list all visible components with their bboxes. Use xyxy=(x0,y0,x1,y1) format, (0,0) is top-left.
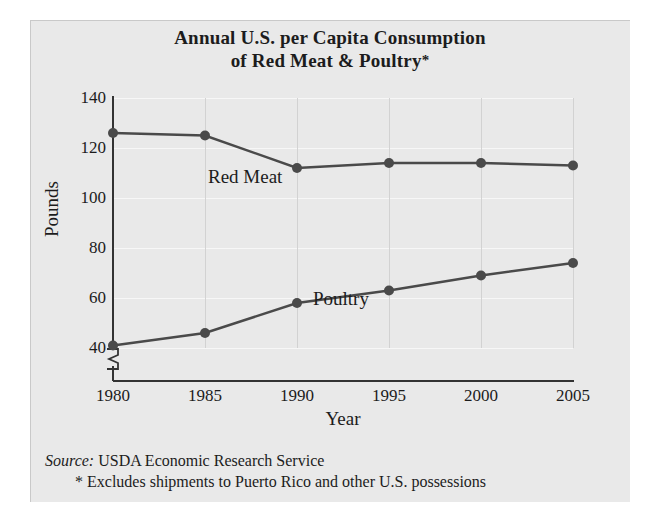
chart-title-line-2: of Red Meat & Poultry xyxy=(231,50,422,71)
gridline-y-100 xyxy=(113,198,573,199)
y-tick-label-40: 40 xyxy=(60,338,106,358)
x-axis-line xyxy=(113,380,574,382)
chart-figure: Annual U.S. per Capita Consumption of Re… xyxy=(0,0,660,530)
gridline-x-2000 xyxy=(481,98,482,348)
x-tick-label-1990: 1990 xyxy=(257,386,337,406)
gridline-y-140 xyxy=(113,98,573,99)
panel-top-rule xyxy=(30,20,630,21)
footnote-line: * Excludes shipments to Puerto Rico and … xyxy=(75,473,486,491)
source-label: Source: xyxy=(45,452,94,469)
source-line: Source: USDA Economic Research Service xyxy=(45,452,324,470)
y-axis-line xyxy=(112,96,114,350)
x-tick-label-1995: 1995 xyxy=(349,386,429,406)
chart-title: Annual U.S. per Capita Consumption of Re… xyxy=(60,26,600,72)
source-text: USDA Economic Research Service xyxy=(98,452,324,469)
y-tick-label-120: 120 xyxy=(60,138,106,158)
series-label-poultry: Poultry xyxy=(313,288,369,310)
gridline-x-1995 xyxy=(389,98,390,348)
y-tick-label-140: 140 xyxy=(60,88,106,108)
chart-title-line-1: Annual U.S. per Capita Consumption xyxy=(174,27,486,48)
y-tick-label-100: 100 xyxy=(60,188,106,208)
x-tick-label-1985: 1985 xyxy=(165,386,245,406)
x-tick-label-2000: 2000 xyxy=(441,386,521,406)
gridline-x-1985 xyxy=(205,98,206,348)
gridline-y-80 xyxy=(113,248,573,249)
x-tick-label-2005: 2005 xyxy=(533,386,613,406)
x-axis-title: Year xyxy=(283,408,403,430)
gridline-x-2005 xyxy=(573,98,574,348)
plot-area xyxy=(113,98,573,348)
title-asterisk: * xyxy=(422,52,430,68)
y-tick-label-80: 80 xyxy=(60,238,106,258)
y-tick-label-60: 60 xyxy=(60,288,106,308)
series-label-red-meat: Red Meat xyxy=(208,166,282,188)
panel-left-rule xyxy=(30,20,31,502)
gridline-x-1990 xyxy=(297,98,298,348)
axis-break-zigzag-icon xyxy=(104,348,126,370)
x-tick-label-1980: 1980 xyxy=(73,386,153,406)
y-axis-title: Pounds xyxy=(41,149,63,269)
gridline-y-120 xyxy=(113,148,573,149)
gridline-y-40 xyxy=(113,348,573,349)
